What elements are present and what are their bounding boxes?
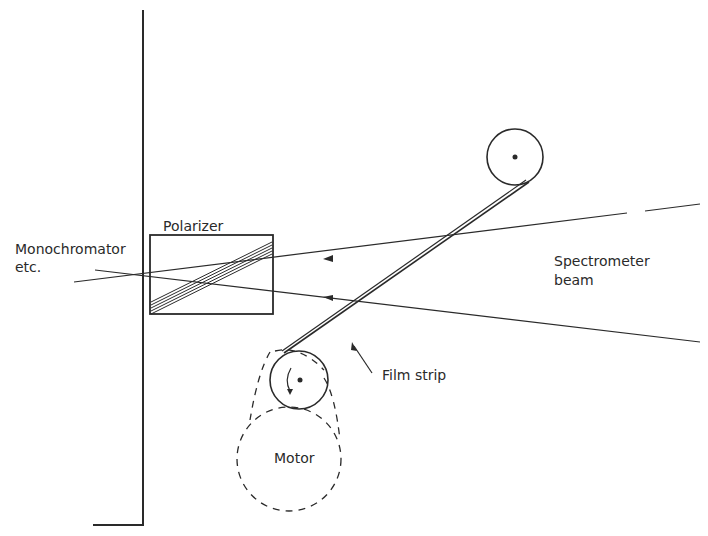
motor-outline [237,350,341,511]
instrument-wall [93,10,143,525]
arrow-left-icon [323,255,333,262]
reel-axle-icon [298,378,303,383]
spectrometer-label: Spectrometer [554,253,650,269]
monochromator-label: Monochromator [15,241,126,257]
film-strip [282,180,529,353]
lower-spectrometer-beam [95,270,700,342]
upper-spectrometer-beam [74,204,700,282]
beam-label: beam [554,272,594,288]
supply-reel [487,129,543,185]
take-up-reel [270,351,328,409]
reel-axle-icon [513,155,518,160]
film-strip-label: Film strip [382,367,446,383]
polarizer-plates [151,242,272,314]
optical-setup-diagram: Polarizer Monochromator etc. Spectromete… [0,0,708,536]
arrow-left-icon [323,295,333,301]
motor-label: Motor [274,450,315,466]
film-strip-pointer [351,342,372,373]
polarizer-label: Polarizer [163,218,224,234]
rotation-arrow-icon [287,368,291,391]
monochromator-etc-label: etc. [15,259,41,275]
